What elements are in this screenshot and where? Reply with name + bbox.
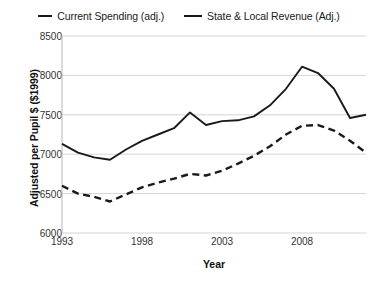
series-line-state-local-revenue <box>62 125 366 201</box>
series-line-current-spending <box>62 67 366 160</box>
data-series <box>62 67 366 202</box>
line-chart: Current Spending (adj.) State & Local Re… <box>0 0 378 281</box>
gridlines <box>62 36 366 233</box>
plot-area <box>0 0 378 281</box>
